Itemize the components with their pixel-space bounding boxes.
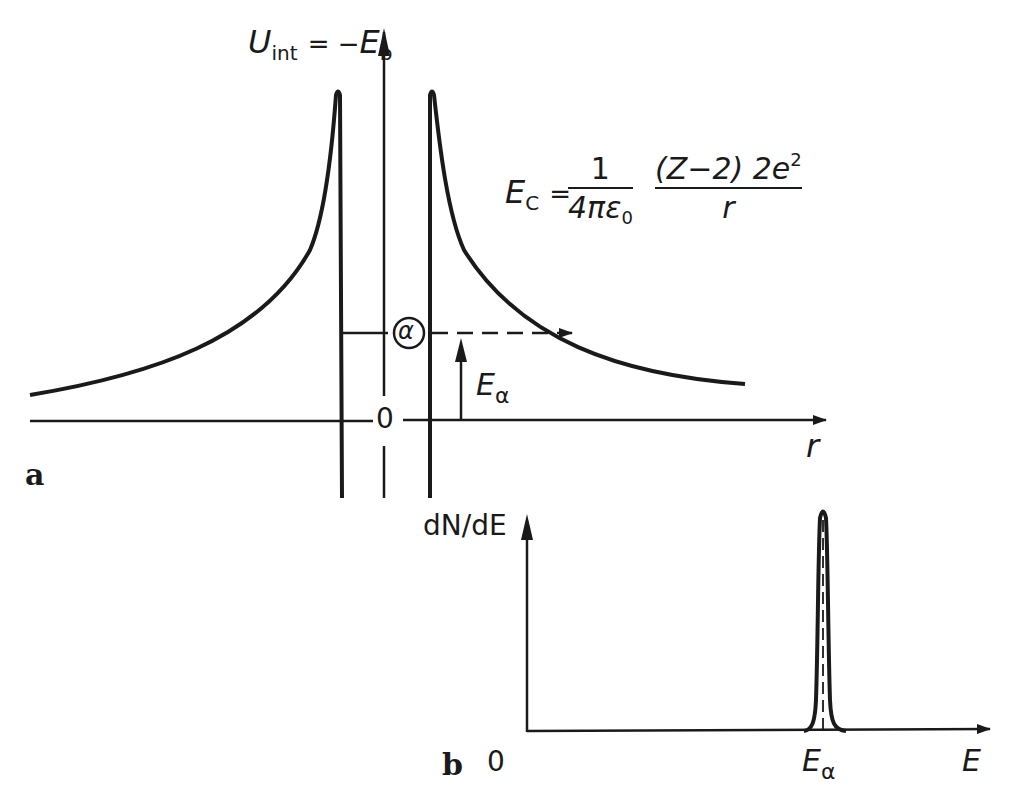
- spectrum-peak: [804, 512, 846, 732]
- u-axis-label: Uint = −Eb: [248, 26, 392, 58]
- r-axis-label: r: [806, 430, 819, 462]
- ec-symbol: E: [505, 173, 525, 211]
- u-equals: = −: [308, 29, 360, 59]
- panel-letter-a: a: [25, 460, 44, 490]
- formula-fraction-2: (Z−2) 2e2 r: [655, 152, 802, 224]
- eb-symbol: E: [360, 23, 380, 61]
- figure: Uint = −Eb EC = 1 4πε0 (Z−2) 2e2 r α Eα …: [0, 0, 1018, 802]
- formula-lhs: EC =: [505, 176, 571, 208]
- eb-subscript: b: [380, 41, 393, 65]
- left-barrier-curve: [30, 92, 342, 499]
- ec-subscript: C: [525, 191, 539, 215]
- origin-label-b: 0: [487, 748, 505, 776]
- diagram-graphics: [0, 0, 1018, 802]
- alpha-symbol: α: [398, 319, 414, 343]
- fraction-1-numerator: 1: [591, 152, 610, 185]
- peak-label: Eα: [802, 746, 835, 776]
- fraction-1-denominator: 4πε0: [568, 191, 633, 224]
- u-symbol: U: [248, 23, 271, 61]
- e-axis: [527, 729, 990, 731]
- e-alpha-label: Eα: [476, 370, 509, 400]
- formula-fraction-1: 1 4πε0: [568, 152, 633, 224]
- fraction-2-numerator: (Z−2) 2e2: [655, 152, 802, 185]
- u-subscript: int: [271, 41, 297, 65]
- panel-letter-b: b: [442, 750, 463, 780]
- fraction-2-denominator: r: [722, 191, 734, 224]
- dnde-axis-label: dN/dE: [423, 512, 507, 540]
- origin-label-a: 0: [376, 405, 394, 433]
- panel-b-graphics: [521, 512, 990, 733]
- e-axis-label: E: [962, 746, 981, 776]
- panel-a-graphics: [30, 28, 826, 498]
